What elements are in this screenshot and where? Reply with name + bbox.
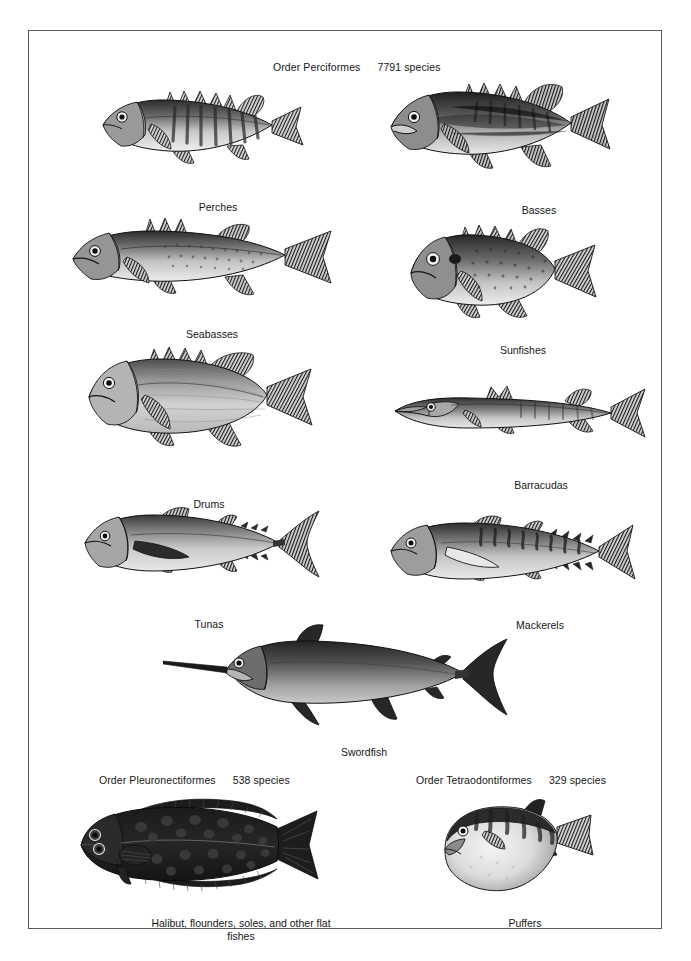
caption-sunfishes: Sunfishes (471, 344, 575, 357)
fish-illustration-mackerels (385, 507, 637, 599)
fish-illustration-drums (81, 341, 321, 461)
caption-puffers: Puffers (485, 917, 565, 930)
order-header-tetraodontiformes: Order Tetraodontiformes329 species (416, 774, 606, 786)
fish-illustration-basses (381, 77, 613, 177)
fish-illustration-swordfish (163, 619, 515, 741)
caption-barracudas: Barracudas (487, 479, 595, 492)
caption-seabasses: Seabasses (157, 328, 267, 341)
fish-illustration-perches (91, 83, 306, 173)
illustration-plate: Order Perciformes7791 species (28, 30, 662, 929)
fish-illustration-barracudas (389, 373, 649, 455)
caption-flatfishes: Halibut, flounders, soles, and other fla… (146, 917, 336, 943)
order-species-perciformes: 7791 species (377, 61, 440, 73)
fish-illustration-seabasses (65, 209, 335, 309)
fish-illustration-puffers (441, 791, 607, 897)
fish-illustration-flatfishes (73, 793, 323, 897)
order-header-pleuronectiformes: Order Pleuronectiformes538 species (99, 774, 290, 786)
fish-illustration-sunfishes (403, 219, 603, 331)
fish-illustration-tunas (79, 499, 327, 597)
caption-basses: Basses (499, 204, 579, 217)
order-species-pleuronectiformes: 538 species (233, 774, 290, 786)
order-name-tetraodontiformes: Order Tetraodontiformes (416, 774, 532, 786)
caption-swordfish: Swordfish (316, 746, 412, 759)
order-header-perciformes: Order Perciformes7791 species (273, 61, 441, 73)
order-species-tetraodontiformes: 329 species (549, 774, 606, 786)
order-name-pleuronectiformes: Order Pleuronectiformes (99, 774, 216, 786)
order-name-perciformes: Order Perciformes (273, 61, 360, 73)
